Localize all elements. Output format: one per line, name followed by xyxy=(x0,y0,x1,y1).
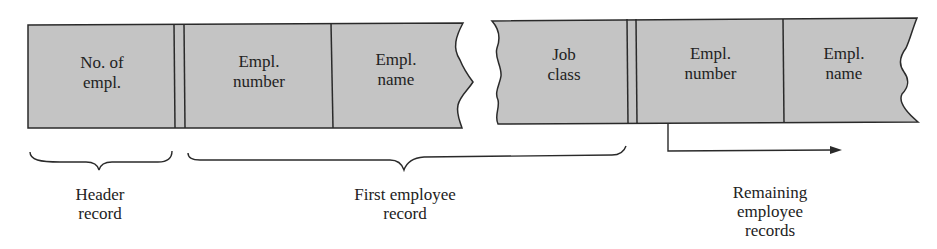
remaining-records-arrow xyxy=(668,124,832,151)
record-separator-line xyxy=(184,24,185,128)
record-separator-line xyxy=(174,24,175,128)
field-employee-name: Empl. name xyxy=(334,50,458,90)
first-employee-brace xyxy=(188,146,626,170)
caption-header-record: Header record xyxy=(50,185,150,223)
field-employee-number-2: Empl. number xyxy=(638,44,783,84)
arrowhead-icon xyxy=(830,146,842,154)
field-employee-number: Empl. number xyxy=(186,52,332,92)
field-divider xyxy=(783,19,784,123)
field-no-of-employees: No. of empl. xyxy=(30,53,174,93)
record-separator-line xyxy=(627,19,628,124)
header-record-brace xyxy=(30,151,172,170)
field-employee-name-2: Empl. name xyxy=(785,44,903,84)
record-separator-line xyxy=(636,19,637,124)
field-job-class: Job class xyxy=(502,45,626,85)
caption-remaining-employee-records: Remaining employee records xyxy=(710,183,830,240)
caption-first-employee-record: First employee record xyxy=(320,185,490,223)
